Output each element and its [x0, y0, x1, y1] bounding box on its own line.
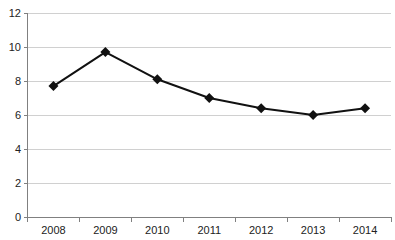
chart-container: 0246810122008200920102011201220132014 [0, 0, 395, 240]
data-point-marker [360, 103, 370, 113]
data-point-marker [204, 93, 214, 103]
y-tick-label: 8 [15, 75, 21, 87]
y-tick-label: 0 [15, 211, 21, 223]
data-point-marker [100, 47, 110, 57]
x-tick-label: 2008 [41, 224, 65, 236]
x-tick-label: 2013 [301, 224, 325, 236]
line-chart-svg: 0246810122008200920102011201220132014 [0, 0, 395, 240]
data-point-marker [152, 74, 162, 84]
data-point-marker [48, 81, 58, 91]
x-tick-label: 2009 [93, 224, 117, 236]
y-tick-label: 12 [9, 7, 21, 19]
y-tick-label: 10 [9, 41, 21, 53]
x-tick-label: 2012 [249, 224, 273, 236]
data-point-marker [256, 103, 266, 113]
x-tick-label: 2014 [353, 224, 377, 236]
x-tick-label: 2010 [145, 224, 169, 236]
y-tick-label: 6 [15, 109, 21, 121]
data-point-marker [308, 110, 318, 120]
x-tick-label: 2011 [197, 224, 221, 236]
y-tick-label: 4 [15, 143, 21, 155]
data-line [53, 52, 365, 115]
y-tick-label: 2 [15, 177, 21, 189]
